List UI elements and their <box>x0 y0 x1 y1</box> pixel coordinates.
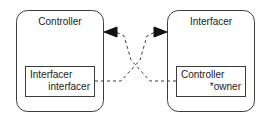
controller-member-type: Interfacer <box>30 69 90 81</box>
interfacer-member-type: Controller <box>181 69 241 81</box>
connector-interfacer-to-interfacer <box>95 27 167 81</box>
interfacer-member-name: *owner <box>181 81 241 93</box>
controller-box-title: Controller <box>16 16 104 28</box>
interfacer-box-title: Interfacer <box>167 16 255 28</box>
connector-owner-to-controller <box>104 27 176 81</box>
diagram-canvas: Controller Interfacer Interfacer interfa… <box>0 0 271 122</box>
arrowhead-left <box>104 27 117 37</box>
controller-member-name: interfacer <box>30 81 90 93</box>
arrowhead-right <box>154 27 167 37</box>
interfacer-member-field: Controller *owner <box>176 66 246 97</box>
controller-member-field: Interfacer interfacer <box>25 66 95 97</box>
